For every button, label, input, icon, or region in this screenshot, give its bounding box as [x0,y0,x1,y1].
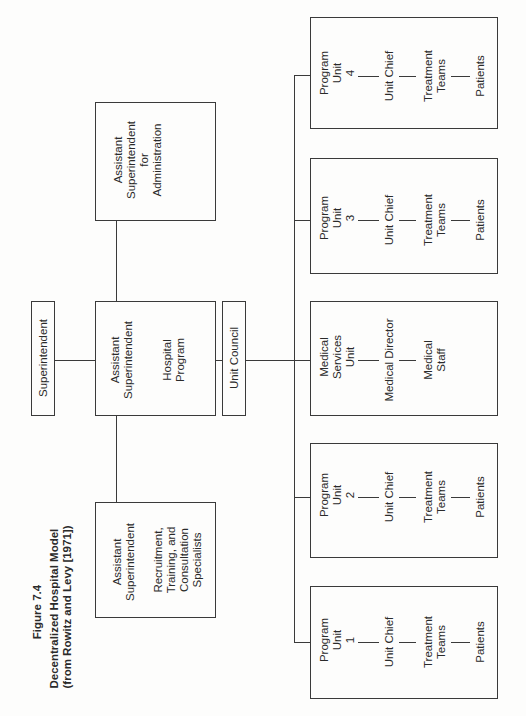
unit-bus-line [294,75,295,642]
node-text: Program [318,618,331,662]
node-text: Unit [331,51,344,95]
chain-dash [399,360,416,361]
node-text: Specialists [191,527,204,594]
node-text: Medical [422,340,435,380]
node-text: Treatment [422,471,435,523]
node-text: Patients [474,199,487,241]
node-text: Program [318,51,331,95]
figure-title-line: Decentralized Hospital Model [48,526,61,689]
node-text: Unit [331,473,344,517]
node-text: Assistant [111,523,124,601]
node-text: Patients [474,621,487,663]
node-text: Program [174,338,187,382]
node-text: Medical [318,335,331,379]
node-text: Superintendent [124,523,137,601]
node-text: Administration [151,121,164,199]
node-text: Patients [474,476,487,518]
figure-source-line: (from Rowitz and Levy [1971]) [61,526,74,689]
node-text: Patients [474,55,487,97]
node-text: 2 [344,473,357,517]
node-text: Training, and [165,527,178,594]
connector-line [294,75,310,76]
node-text: Teams [435,471,448,523]
node-text: Unit Chief [383,51,396,102]
node-text: Teams [435,616,448,668]
node-text: Teams [435,194,448,246]
connector-line [294,220,310,221]
chain-dash [399,220,416,221]
node-text: Services [331,335,344,379]
connector-line [246,360,310,361]
chain-dash [358,642,379,643]
node-text: Unit [331,196,344,240]
node-text: Teams [435,50,448,102]
node-text: Assistant [112,121,125,199]
node-text: Medical Director [383,318,396,401]
node-text: Program [318,473,331,517]
chain-dash [399,497,416,498]
node-text: Superintendent [122,321,135,399]
node-text: Staff [435,340,448,380]
node-text: Unit [331,618,344,662]
node-text: Treatment [422,50,435,102]
node-text: for [138,121,151,199]
figure-number: Figure 7.4 [31,585,44,639]
node-text: Program [318,196,331,240]
node-text: Unit Council [228,327,241,389]
chain-dash [358,497,379,498]
chain-dash [451,220,470,221]
chain-dash [399,76,416,77]
connector-line [294,642,310,643]
chain-dash [451,642,470,643]
node-text: 1 [344,618,357,662]
connector-line [116,416,117,502]
node-text: Unit Chief [383,617,396,668]
chain-dash [358,360,379,361]
chain-dash [399,642,416,643]
node-text: Recruitment, [152,527,165,594]
chain-dash [451,76,470,77]
node-text: Superintendent [125,121,138,199]
chain-dash [358,220,379,221]
node-text: 3 [344,196,357,240]
node-text: Treatment [422,616,435,668]
node-text: Treatment [422,194,435,246]
node-text: Assistant [109,321,122,399]
connector-line [55,360,95,361]
node-text: Consultation [178,527,191,594]
node-text: Unit [344,335,357,379]
node-text: Unit Chief [383,195,396,246]
chain-dash [358,76,379,77]
node-text: 4 [344,51,357,95]
connector-line [116,221,117,301]
chain-dash [451,497,470,498]
node-text: Hospital [161,338,174,382]
connector-line [294,497,310,498]
node-text: Superintendent [37,319,50,397]
node-text: Unit Chief [383,472,396,523]
